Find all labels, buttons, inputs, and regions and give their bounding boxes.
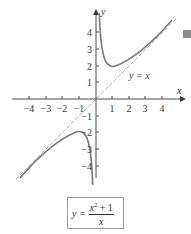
corner-marker — [183, 30, 191, 38]
formula-numerator: x2 + 1 — [89, 200, 114, 215]
svg-text:−2: −2 — [81, 127, 92, 138]
y-axis — [96, 12, 99, 178]
svg-text:−2: −2 — [57, 103, 68, 114]
x-axis-label: x — [176, 85, 182, 96]
formula-box: y = x2 + 1 x — [67, 197, 124, 229]
svg-text:−1: −1 — [81, 111, 92, 122]
svg-text:2: 2 — [87, 61, 92, 72]
svg-text:4: 4 — [160, 103, 165, 114]
curve-branch-negative — [20, 131, 93, 185]
svg-text:1: 1 — [87, 77, 92, 88]
svg-text:1: 1 — [110, 103, 115, 114]
curve-branch-positive — [99, 13, 172, 67]
svg-text:3: 3 — [87, 44, 92, 55]
formula: y = x2 + 1 x — [72, 198, 114, 228]
svg-text:−4: −4 — [24, 103, 35, 114]
formula-lhs: y = — [72, 208, 86, 219]
svg-text:2: 2 — [127, 103, 132, 114]
formula-denominator: x — [99, 215, 103, 227]
svg-text:−3: −3 — [81, 144, 92, 155]
svg-text:−3: −3 — [41, 103, 52, 114]
formula-fraction: x2 + 1 x — [89, 200, 114, 227]
asymptote-label: y = x — [128, 70, 150, 81]
svg-text:4: 4 — [87, 27, 92, 38]
y-axis-label: y — [100, 6, 106, 17]
svg-text:3: 3 — [143, 103, 148, 114]
x-tick-labels: −4 −3 −2 −1 1 2 3 4 — [24, 103, 165, 114]
svg-text:−4: −4 — [81, 161, 92, 172]
